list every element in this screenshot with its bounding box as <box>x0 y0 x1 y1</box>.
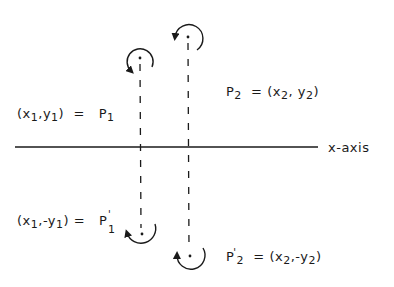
point-name: P <box>99 213 107 228</box>
equals-sign: = <box>73 106 84 121</box>
label-p1-prime: (x1,-y1) = P'1 <box>17 214 107 227</box>
label-text: ,-y <box>38 213 56 228</box>
prime-mark: ' <box>108 210 111 220</box>
label-text: , y <box>288 84 305 99</box>
label-p2-prime: P'2 = (x2,-y2) <box>226 250 322 263</box>
point-p1-dot <box>139 57 142 60</box>
label-sub: 2 <box>308 254 316 267</box>
x-axis-label: x-axis <box>328 141 369 154</box>
point-name: P <box>99 106 107 121</box>
label-text: ) <box>64 213 70 228</box>
label-sub: 2 <box>234 89 242 102</box>
label-sub: 1 <box>108 224 116 235</box>
label-text: ,-y <box>291 249 309 264</box>
point-p2-dot <box>187 36 190 39</box>
equals-sign: = <box>251 84 262 99</box>
label-sub: 1 <box>51 111 59 124</box>
label-text: (x <box>17 106 31 121</box>
label-text: (x <box>269 249 283 264</box>
label-text: (x <box>17 213 31 228</box>
label-text: ) <box>316 249 322 264</box>
label-p2: P2 = (x2, y2) <box>226 85 319 98</box>
reflection-diagram: (x1,y1) = P1 P2 = (x2, y2) x-axis (x1,-y… <box>0 0 394 287</box>
label-text: (x <box>267 84 281 99</box>
label-sub: 2 <box>237 254 245 267</box>
label-sub: 2 <box>283 254 291 267</box>
label-p1: (x1,y1) = P1 <box>17 107 115 120</box>
point-name-prime: P'1 <box>99 214 107 227</box>
label-text: ) <box>313 84 319 99</box>
label-text: ) <box>59 106 65 121</box>
label-sub: 1 <box>56 218 64 231</box>
point-p2-prime-dot <box>189 255 192 258</box>
equals-sign: = <box>253 249 264 264</box>
point-p1-prime-dot <box>141 233 144 236</box>
dashed-connector-p1 <box>140 64 141 228</box>
label-text: ,y <box>38 106 51 121</box>
label-sub: 1 <box>107 111 115 124</box>
rotation-arrow-p2-prime-icon <box>177 248 205 269</box>
equals-sign: = <box>74 213 85 228</box>
